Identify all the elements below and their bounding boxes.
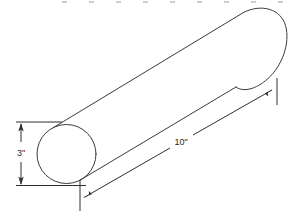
diameter-dimension: 3" <box>16 122 86 186</box>
arrow-diagonal-upper-right-icon <box>265 89 275 97</box>
cylinder-top-silhouette <box>54 13 244 128</box>
length-dimension-line-upper <box>193 90 272 135</box>
diameter-dimension-label: 3" <box>17 148 25 158</box>
length-dimension: 10" <box>80 78 277 211</box>
arrow-diagonal-lower-left-icon <box>83 191 93 199</box>
cylinder-diagram: 3" 10" <box>0 0 303 218</box>
cylinder-right-end-cap <box>236 8 287 90</box>
cylinder-left-end-circle <box>37 125 96 184</box>
cylinder-bottom-silhouette <box>80 87 237 181</box>
length-dimension-label: 10" <box>174 137 187 147</box>
figure-canvas: 3" 10" <box>0 0 303 218</box>
length-dimension-line-lower <box>84 148 170 198</box>
cylinder-outline <box>37 8 287 183</box>
